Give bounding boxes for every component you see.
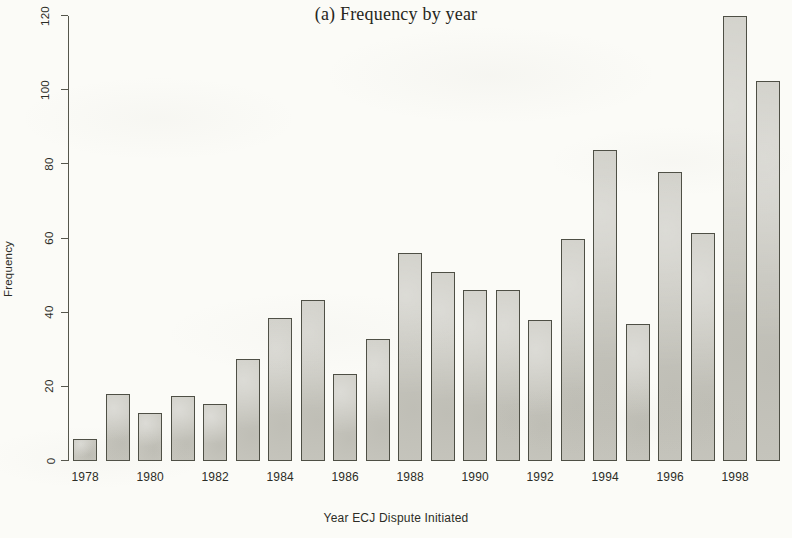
x-axis-tick-label: 1998 xyxy=(722,470,750,484)
chart-page: (a) Frequency by year 020406080100120 Fr… xyxy=(0,0,792,538)
y-axis-tick-label: 120 xyxy=(39,5,51,25)
bar xyxy=(138,413,162,461)
x-axis-labels: 1978198019821984198619881990199219941996… xyxy=(68,470,784,494)
y-axis-tick: 60 xyxy=(61,238,68,239)
y-axis-tick: 40 xyxy=(61,312,68,313)
bar xyxy=(593,150,617,462)
bar xyxy=(561,239,585,462)
bar xyxy=(106,394,130,461)
bar xyxy=(658,172,682,461)
x-axis-tick-label: 1994 xyxy=(592,470,620,484)
bar xyxy=(756,81,780,461)
x-axis-title: Year ECJ Dispute Initiated xyxy=(0,511,792,525)
x-axis-tick-label: 1990 xyxy=(462,470,490,484)
x-axis-tick-label: 1984 xyxy=(267,470,295,484)
bar xyxy=(496,290,520,461)
bar xyxy=(236,359,260,461)
x-axis-tick-label: 1996 xyxy=(657,470,685,484)
bar xyxy=(268,318,292,461)
bar xyxy=(203,404,227,461)
bar xyxy=(333,374,357,461)
y-axis-tick: 0 xyxy=(61,460,68,461)
bar xyxy=(398,253,422,461)
y-axis-tick-label: 0 xyxy=(46,457,58,464)
bar xyxy=(463,290,487,461)
bar xyxy=(431,272,455,461)
x-axis-tick-label: 1982 xyxy=(202,470,230,484)
y-axis-title: Frequency xyxy=(2,241,14,297)
y-axis-tick-label: 100 xyxy=(39,80,51,100)
bar xyxy=(723,16,747,461)
bar xyxy=(73,439,97,461)
bar xyxy=(528,320,552,461)
y-axis-tick: 80 xyxy=(61,163,68,164)
x-axis-tick-label: 1980 xyxy=(137,470,165,484)
x-axis-tick-label: 1992 xyxy=(527,470,555,484)
x-axis-tick-label: 1978 xyxy=(72,470,100,484)
y-axis-tick-label: 80 xyxy=(42,157,54,170)
y-axis-tick: 120 xyxy=(61,15,68,16)
bar xyxy=(171,396,195,461)
bar xyxy=(366,339,390,461)
x-axis-tick-label: 1988 xyxy=(397,470,425,484)
bar xyxy=(626,324,650,461)
y-axis-tick: 100 xyxy=(61,89,68,90)
bar xyxy=(691,233,715,461)
plot-area: 020406080100120 xyxy=(68,16,784,461)
y-axis-tick-label: 60 xyxy=(42,231,54,244)
y-axis-tick-label: 40 xyxy=(42,305,54,318)
y-axis-tick-label: 20 xyxy=(42,380,54,393)
y-axis-tick: 20 xyxy=(61,386,68,387)
bar xyxy=(301,300,325,461)
bars-layer xyxy=(69,16,784,461)
x-axis-tick-label: 1986 xyxy=(332,470,360,484)
